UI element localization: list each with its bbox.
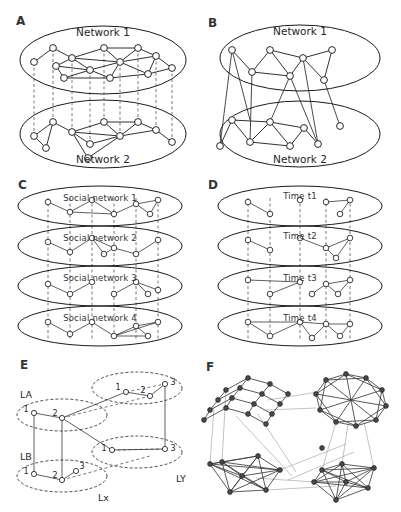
layer-label-time-t4: Time t4 [282, 313, 317, 323]
nodes-LA: 1 2 [23, 405, 64, 421]
nodes-b-network-2 [217, 117, 344, 150]
node-label-Lxu-3: 3 [170, 378, 175, 387]
panel-c-graphic: Social network 1 Social n [0, 176, 200, 352]
figure-canvas: A [0, 0, 401, 512]
panel-letter-e: E [20, 358, 29, 372]
node-label-LB-2: 2 [52, 471, 57, 480]
node-label-LY-1: 1 [101, 444, 106, 453]
layer-label-Lx: Lx [98, 492, 109, 503]
layer-label-LA: LA [20, 389, 33, 400]
panel-c: C [0, 176, 200, 352]
layer-label-social-2: Social network 2 [63, 233, 137, 243]
layer-label-social-4: Social network 4 [63, 313, 137, 323]
nodes-network-1 [31, 45, 176, 82]
node-label-LY-3: 3 [170, 444, 175, 453]
layer-label-network-1: Network 1 [76, 26, 130, 38]
interlayer-links-b [220, 50, 340, 146]
node-label-Lxu-2: 2 [140, 386, 145, 395]
intralayer-edges-b-network-1 [232, 50, 332, 80]
nodes-Lx-upper: 1 2 3 [115, 378, 175, 399]
panel-a: A [0, 0, 200, 178]
layer-label-time-t2: Time t2 [282, 231, 317, 241]
layer-label-social-3: Social network 3 [63, 273, 137, 283]
panel-d-graphic: Time t1 Time t2 [200, 176, 401, 352]
panel-f: F [196, 352, 401, 512]
layer-label-time-t1: Time t1 [282, 191, 317, 201]
panel-letter-d: D [208, 178, 218, 192]
panel-letter-b: B [208, 16, 217, 30]
layer-label-LB: LB [20, 451, 32, 462]
module-lattice-grid [202, 376, 291, 427]
layer-label-LY: LY [176, 473, 186, 484]
panel-b: B [200, 0, 401, 178]
panel-letter-f: F [206, 360, 215, 374]
module-circulant-ring [314, 372, 389, 429]
layer-label-network-2: Network 2 [76, 153, 130, 165]
layer-label-b-network-1: Network 1 [273, 25, 327, 37]
nodes-LB: 1 2 3 [23, 462, 84, 483]
node-label-LB-1: 1 [23, 467, 28, 476]
intralayer-edges-social-4 [48, 322, 158, 336]
intralayer-edges-social-3 [48, 282, 158, 294]
layer-label-social-1: Social network 1 [63, 193, 137, 203]
node-label-LA-2: 2 [52, 409, 57, 418]
node-label-LA-1: 1 [23, 405, 28, 414]
panel-e-graphic: 1 2 1 2 3 1 2 [0, 352, 200, 512]
layer-label-time-t3: Time t3 [282, 273, 317, 283]
node-label-Lxu-1: 1 [115, 383, 120, 392]
nodes-LY: 1 3 [101, 444, 175, 453]
panel-f-graphic [196, 352, 401, 512]
panel-d: D Time [200, 176, 401, 352]
panel-e: E 1 [0, 352, 200, 512]
panel-b-graphic: Network 1 Network 2 [200, 0, 401, 178]
panel-letter-c: C [18, 178, 27, 192]
module-dense-cluster-left [208, 454, 283, 495]
node-label-LB-3: 3 [79, 462, 84, 471]
panel-a-graphic: Network 1 Network 2 [0, 0, 200, 178]
panel-letter-a: A [16, 14, 26, 28]
module-dense-cluster-right [312, 462, 377, 503]
layer-label-b-network-2: Network 2 [273, 153, 327, 165]
isolated-node-f [320, 446, 325, 451]
interlayer-links-e [34, 384, 165, 480]
